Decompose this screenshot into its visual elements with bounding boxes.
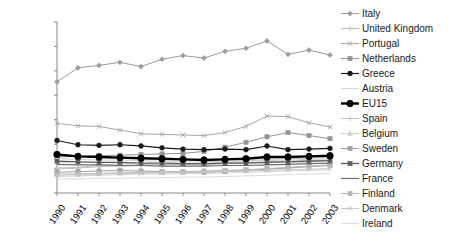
legend-item-label: Belgium xyxy=(360,128,398,139)
legend-item-label: Ireland xyxy=(360,218,393,229)
legend-item-label: United Kingdom xyxy=(360,23,433,34)
legend-item-label: France xyxy=(360,173,393,184)
legend-item-denmark[interactable]: Denmark xyxy=(340,201,456,216)
legend-marker-icon xyxy=(340,8,360,19)
line-chart: 0.002.004.006.008.0010.0012.0014.00 1990… xyxy=(0,0,456,242)
legend-marker-icon xyxy=(340,143,360,154)
legend-marker-icon xyxy=(340,68,360,79)
legend-item-united-kingdom[interactable]: United Kingdom xyxy=(340,21,456,36)
legend-item-austria[interactable]: Austria xyxy=(340,81,456,96)
legend-item-spain[interactable]: Spain xyxy=(340,111,456,126)
legend-item-label: Finland xyxy=(360,188,395,199)
legend-marker-icon xyxy=(340,38,360,49)
legend-item-netherlands[interactable]: Netherlands xyxy=(340,51,456,66)
legend-item-italy[interactable]: Italy xyxy=(340,6,456,21)
legend-item-label: Portugal xyxy=(360,38,399,49)
chart-legend: ItalyUnited KingdomPortugalNetherlandsGr… xyxy=(340,6,456,231)
legend-item-france[interactable]: France xyxy=(340,171,456,186)
legend-item-label: Germany xyxy=(360,158,403,169)
legend-marker-icon xyxy=(340,23,360,34)
legend-marker-icon xyxy=(340,203,360,214)
legend-marker-icon xyxy=(340,113,360,124)
legend-item-greece[interactable]: Greece xyxy=(340,66,456,81)
legend-item-label: Denmark xyxy=(360,203,403,214)
legend-item-label: Austria xyxy=(360,83,393,94)
legend-marker-icon xyxy=(340,128,360,139)
legend-marker-icon xyxy=(340,158,360,169)
legend-item-germany[interactable]: Germany xyxy=(340,156,456,171)
legend-marker-icon xyxy=(340,218,360,229)
legend-item-finland[interactable]: Finland xyxy=(340,186,456,201)
legend-item-belgium[interactable]: Belgium xyxy=(340,126,456,141)
legend-item-label: EU15 xyxy=(360,98,387,109)
legend-item-eu15[interactable]: EU15 xyxy=(340,96,456,111)
legend-item-ireland[interactable]: Ireland xyxy=(340,216,456,231)
legend-item-label: Spain xyxy=(360,113,388,124)
legend-marker-icon xyxy=(340,188,360,199)
legend-item-sweden[interactable]: Sweden xyxy=(340,141,456,156)
legend-marker-icon xyxy=(340,173,360,184)
legend-marker-icon xyxy=(340,53,360,64)
legend-item-label: Greece xyxy=(360,68,395,79)
legend-item-label: Netherlands xyxy=(360,53,416,64)
legend-item-portugal[interactable]: Portugal xyxy=(340,36,456,51)
legend-marker-icon xyxy=(340,98,360,109)
legend-marker-icon xyxy=(340,83,360,94)
legend-item-label: Sweden xyxy=(360,143,398,154)
legend-item-label: Italy xyxy=(360,8,380,19)
